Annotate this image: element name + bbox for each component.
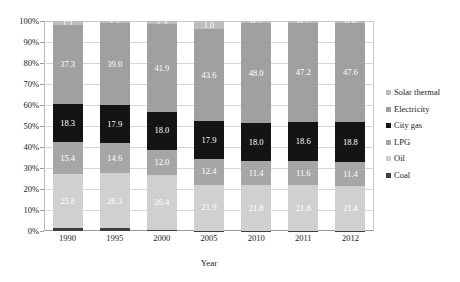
bar-segment-value-label: 48.0	[249, 69, 264, 78]
legend-item[interactable]: LPG	[386, 138, 460, 148]
bar-column[interactable]: 1.341.918.012.026.4	[147, 21, 177, 231]
bar-column[interactable]: 0.747.218.611.621.8	[288, 21, 318, 231]
y-axis-tick-label: 100%	[19, 16, 39, 26]
y-axis-tick-label: 70%	[23, 79, 39, 89]
legend-swatch-icon	[386, 173, 391, 178]
bar-segment[interactable]: 48.0	[241, 23, 271, 124]
bar-segment-value-label: 37.3	[60, 60, 75, 69]
bar-segment[interactable]: 17.9	[194, 121, 224, 159]
bar-segment-value-label: 1.0	[204, 21, 215, 29]
y-axis-tick-label: 90%	[23, 37, 39, 47]
x-axis-title: Year	[44, 258, 374, 268]
bar-segment[interactable]: 25.8	[53, 174, 83, 228]
bar-segment[interactable]: 1.0	[194, 21, 224, 29]
x-axis-tick-label: 2011	[288, 233, 318, 243]
bar-segment-value-label: 18.6	[296, 137, 311, 146]
y-axis-tick-mark	[40, 231, 44, 232]
stacked-bar-chart: 0%10%20%30%40%50%60%70%80%90%100% 1.137.…	[0, 0, 460, 282]
x-axis-tick-label: 2005	[194, 233, 224, 243]
bar-segment-value-label: 43.6	[202, 71, 217, 80]
bar-segment[interactable]: 39.0	[100, 23, 130, 105]
bar-segment-value-label: 21.8	[296, 204, 311, 213]
bar-segment[interactable]	[147, 230, 177, 231]
bar-segment[interactable]: 12.4	[194, 159, 224, 185]
legend-swatch-icon	[386, 123, 391, 128]
legend-item[interactable]: Oil	[386, 154, 460, 164]
bar-segment[interactable]: 14.6	[100, 143, 130, 174]
bar-column[interactable]: 1.043.617.912.421.9	[194, 21, 224, 231]
bar-segment[interactable]: 17.9	[100, 105, 130, 143]
y-axis-tick-label: 80%	[23, 58, 39, 68]
bar-segment[interactable]	[100, 228, 130, 231]
bar-segment-value-label: 41.9	[154, 64, 169, 73]
bar-segment[interactable]: 11.4	[241, 161, 271, 185]
bar-segment[interactable]: 18.8	[335, 122, 365, 161]
legend-item[interactable]: Coal	[386, 171, 460, 181]
bar-segment-value-label: 11.4	[249, 169, 264, 178]
bar-segment-value-label: 26.4	[154, 198, 169, 207]
x-axis-tick-labels: 1990199520002005201020112012	[44, 233, 374, 243]
bar-segment[interactable]: 12.0	[147, 150, 177, 175]
bar-segment[interactable]: 47.6	[335, 23, 365, 123]
bar-segment-value-label: 18.0	[249, 138, 264, 147]
bar-segment-value-label: 21.9	[202, 203, 217, 212]
bar-segment-value-label: 26.3	[107, 197, 122, 206]
legend-item-label: Coal	[394, 171, 410, 181]
legend-swatch-icon	[386, 107, 391, 112]
bar-segment-value-label: 11.6	[296, 169, 311, 178]
legend-item[interactable]: City gas	[386, 121, 460, 131]
bar-segment[interactable]: 21.9	[194, 185, 224, 231]
legend-item-label: LPG	[394, 138, 410, 148]
legend-item-label: Solar thermal	[394, 88, 440, 98]
bar-segment-value-label: 18.0	[154, 126, 169, 135]
bar-column[interactable]: 1.139.017.914.626.3	[100, 21, 130, 231]
bar-segment-value-label: 12.0	[154, 158, 169, 167]
bar-segment-value-label: 47.2	[296, 68, 311, 77]
x-axis-tick-label: 2000	[147, 233, 177, 243]
bar-segment[interactable]: 18.3	[53, 104, 83, 142]
y-axis-tick-label: 50%	[23, 121, 39, 131]
plot-area: 0%10%20%30%40%50%60%70%80%90%100% 1.137.…	[44, 21, 374, 231]
bar-segment-value-label: 12.4	[202, 167, 217, 176]
legend-item-label: Oil	[394, 154, 405, 164]
x-axis-tick-label: 2010	[241, 233, 271, 243]
bar-segment[interactable]: 47.2	[288, 23, 318, 122]
bar-segment[interactable]: 37.3	[53, 25, 83, 103]
bar-segment[interactable]	[53, 228, 83, 231]
bar-column[interactable]: 0.647.618.811.421.4	[335, 21, 365, 231]
bar-column[interactable]: 0.748.018.011.421.8	[241, 21, 271, 231]
bar-segment[interactable]: 26.3	[100, 173, 130, 228]
bar-segment[interactable]: 21.8	[241, 185, 271, 231]
bar-segment[interactable]: 41.9	[147, 24, 177, 112]
y-axis-tick-label: 0%	[28, 226, 39, 236]
bar-segment-value-label: 18.8	[343, 138, 358, 147]
legend-item[interactable]: Electricity	[386, 105, 460, 115]
y-axis-tick-label: 60%	[23, 100, 39, 110]
bar-segment-value-label: 21.8	[249, 204, 264, 213]
bar-segment[interactable]: 11.6	[288, 161, 318, 185]
bar-segment-value-label: 21.4	[343, 204, 358, 213]
bar-segment[interactable]: 15.4	[53, 142, 83, 174]
chart-legend: Solar thermalElectricityCity gasLPGOilCo…	[386, 88, 460, 187]
bar-segment[interactable]: 18.0	[147, 112, 177, 150]
y-axis-tick-label: 20%	[23, 184, 39, 194]
legend-swatch-icon	[386, 140, 391, 145]
y-axis-tick-label: 40%	[23, 142, 39, 152]
bar-column[interactable]: 1.137.318.315.425.8	[53, 21, 83, 231]
bar-segment[interactable]: 18.6	[288, 122, 318, 161]
bar-segment[interactable]: 18.0	[241, 123, 271, 161]
legend-item-label: City gas	[394, 121, 422, 131]
bar-segment-value-label: 39.0	[107, 60, 122, 69]
bar-segment-value-label: 47.6	[343, 68, 358, 77]
bar-segment[interactable]: 26.4	[147, 175, 177, 230]
bar-segment[interactable]: 21.4	[335, 186, 365, 231]
bar-segment[interactable]: 21.8	[288, 185, 318, 231]
bar-segment[interactable]: 43.6	[194, 29, 224, 121]
x-axis-tick-label: 1990	[53, 233, 83, 243]
legend-item[interactable]: Solar thermal	[386, 88, 460, 98]
legend-swatch-icon	[386, 156, 391, 161]
bar-segment[interactable]: 11.4	[335, 162, 365, 186]
bar-segment-value-label: 25.8	[60, 197, 75, 206]
bar-series-container: 1.137.318.315.425.81.139.017.914.626.31.…	[44, 21, 374, 231]
y-axis-tick-label: 10%	[23, 205, 39, 215]
